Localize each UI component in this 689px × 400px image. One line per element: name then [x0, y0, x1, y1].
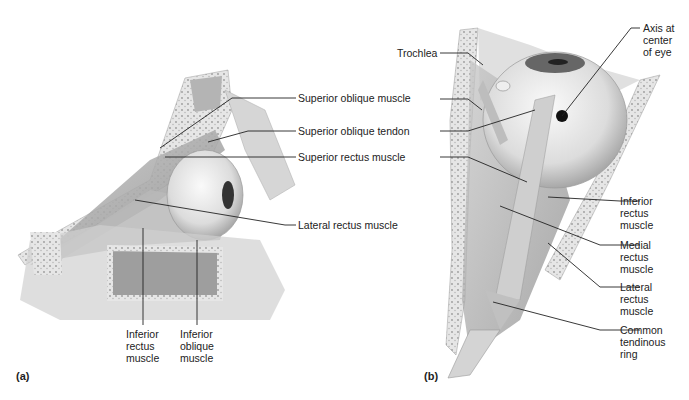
label-superior-oblique-tendon-a: Superior oblique tendon	[298, 125, 410, 137]
label-inferior-rectus-muscle-a: Inferior rectus muscle	[126, 328, 159, 364]
label-lateral-rectus-muscle-b: Lateral rectus muscle	[620, 281, 653, 317]
eye-muscles-illustration	[0, 0, 689, 400]
panel-a-illustration	[18, 70, 295, 320]
panel-label-a: (a)	[16, 370, 29, 382]
label-superior-rectus-muscle-a: Superior rectus muscle	[298, 151, 405, 163]
label-axis-center-of-eye: Axis at center of eye	[643, 22, 675, 58]
label-medial-rectus-muscle-b: Medial rectus muscle	[620, 239, 653, 275]
label-trochlea: Trochlea	[397, 47, 437, 59]
label-inferior-rectus-muscle-b: Inferior rectus muscle	[620, 195, 653, 231]
panel-label-b: (b)	[424, 370, 438, 382]
label-inferior-oblique-muscle-a: Inferior oblique muscle	[180, 328, 214, 364]
label-common-tendinous-ring: Common tendinous ring	[620, 324, 666, 360]
label-lateral-rectus-muscle-a: Lateral rectus muscle	[298, 219, 398, 231]
label-superior-oblique-muscle-a: Superior oblique muscle	[298, 92, 411, 104]
